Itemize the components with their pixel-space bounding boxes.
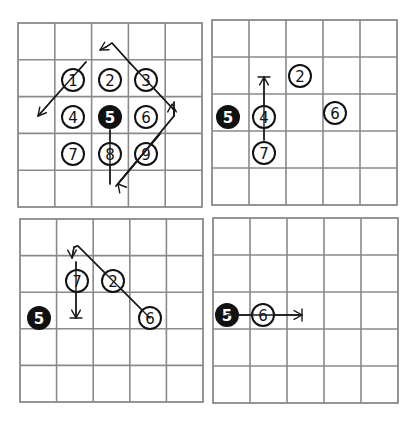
stone-9: 9	[135, 143, 157, 165]
panel-4-grid: 56	[213, 218, 398, 403]
stone-label: 5	[223, 109, 233, 127]
stone-label: 6	[145, 310, 155, 328]
stone-label: 2	[295, 68, 305, 86]
panel-1-grid: 123456789	[18, 23, 202, 207]
stone-label: 6	[258, 307, 268, 325]
diagram-canvas: 123456789 54726 5726 56	[0, 0, 417, 428]
stone-label: 2	[108, 273, 118, 291]
stone-6: 6	[324, 102, 346, 124]
stone-label: 5	[105, 109, 115, 127]
stone-2: 2	[99, 69, 121, 91]
stone-2: 2	[289, 65, 311, 87]
stone-label: 6	[141, 109, 151, 127]
stone-label: 7	[259, 145, 269, 163]
stone-label: 6	[330, 105, 340, 123]
filled-stone-5: 5	[99, 106, 121, 128]
stone-label: 5	[222, 307, 232, 325]
grid-border	[212, 20, 397, 205]
filled-stone-5: 5	[28, 307, 50, 329]
panel-2-grid: 54726	[212, 20, 397, 205]
diagram-stage: 123456789 54726 5726 56	[0, 0, 417, 428]
grid-border	[213, 218, 398, 403]
stone-label: 7	[68, 146, 78, 164]
filled-stone-5: 5	[217, 106, 239, 128]
stone-6: 6	[135, 106, 157, 128]
panel-3-grid: 5726	[20, 219, 203, 402]
stone-label: 5	[34, 310, 44, 328]
stone-label: 4	[68, 109, 78, 127]
stone-7: 7	[253, 142, 275, 164]
arrowhead-icon	[68, 250, 77, 258]
stone-7: 7	[66, 270, 88, 292]
stone-4: 4	[62, 106, 84, 128]
arrowhead-icon	[118, 184, 126, 193]
stone-1: 1	[62, 69, 84, 91]
stone-label: 7	[72, 273, 82, 291]
stone-7: 7	[62, 143, 84, 165]
stone-label: 2	[105, 72, 115, 90]
